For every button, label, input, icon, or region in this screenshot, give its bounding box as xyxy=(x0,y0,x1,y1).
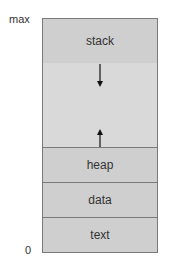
stack-grows-down-arrow-icon xyxy=(97,64,103,87)
growth-arrows xyxy=(0,0,170,272)
heap-grows-up-arrow-icon xyxy=(97,129,103,147)
